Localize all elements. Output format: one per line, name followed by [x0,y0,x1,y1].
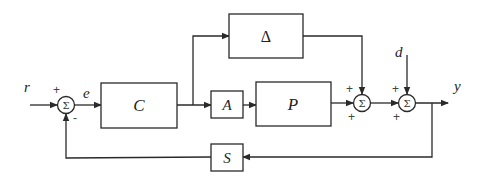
plant-block: P [256,82,331,126]
sum2-plus-sign-bottom: + [348,110,355,124]
sum3-plus-sign-top: + [392,82,399,96]
sum3-plus-sign-bottom: + [393,110,400,124]
summing-junction-2: Σ [354,95,371,112]
uncertainty-label: Δ [261,28,271,45]
sigma-symbol: Σ [358,98,365,109]
block-diagram: r Σ + - e C Δ A P Σ + + d [0,0,486,180]
output-label: y [452,78,461,94]
sensor-block: S [211,144,243,171]
error-label: e [83,85,90,101]
actuator-block: A [211,91,243,118]
summing-junction-3: Σ [399,95,416,112]
controller-label: C [133,96,145,115]
sum1-minus-sign: - [73,111,77,125]
actuator-label: A [221,97,232,113]
uncertainty-block: Δ [229,14,303,58]
sigma-symbol: Σ [403,98,410,109]
sensor-label: S [223,150,231,166]
summing-junction-1: Σ [58,97,75,114]
sigma-symbol: Σ [62,100,69,111]
reference-label: r [24,79,30,95]
plant-label: P [287,95,298,114]
sum2-plus-sign-top: + [346,82,353,96]
controller-block: C [101,83,177,128]
sum1-plus-sign: + [53,83,60,97]
disturbance-label: d [395,44,403,60]
